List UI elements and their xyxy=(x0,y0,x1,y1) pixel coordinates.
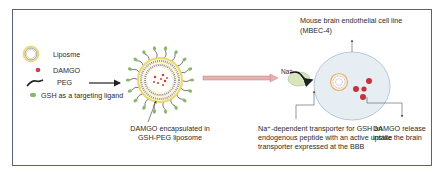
diagram-artwork xyxy=(0,0,444,180)
legend-label-gsh: GSH as a targeting ligand xyxy=(41,91,123,100)
liposome-icon xyxy=(21,44,41,64)
endothelial-cell xyxy=(314,52,390,120)
liposome-caption-line2: GSH-PEG liposome xyxy=(130,133,210,142)
legend-label-liposome: Liposme xyxy=(53,50,80,59)
transporter-caption-line1: Na⁺-dependent transporter for GSH an xyxy=(258,124,382,133)
release-caption-line1: DAMGO release xyxy=(373,124,426,133)
legend-label-peg: PEG xyxy=(57,78,72,87)
cell-title-line1: Mouse brain endothelial cell line xyxy=(300,16,402,25)
cell-title-line2: (MBEC-4) xyxy=(300,26,332,35)
legend-label-damgo: DAMGO xyxy=(53,66,80,75)
transporter-pointer xyxy=(296,91,314,119)
damgo-dot-icon xyxy=(36,68,41,73)
release-caption-line2: inside the brain xyxy=(373,133,422,142)
gsh-ligand-icon xyxy=(30,93,36,97)
peg-chain-icon xyxy=(27,80,43,86)
internalized-liposome xyxy=(331,74,348,91)
transporter-caption-line3: transporter expressed at the BBB xyxy=(258,142,364,151)
delivery-arrow xyxy=(203,74,278,82)
liposome-caption-line1: DAMGO encapsulated in xyxy=(130,124,210,133)
gsh-peg-liposome xyxy=(126,46,194,114)
sodium-label: Na⁺ xyxy=(281,67,293,76)
